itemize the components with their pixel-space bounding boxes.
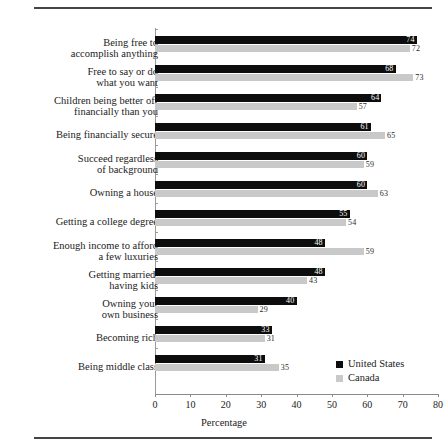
bar-value-label: 31 xyxy=(254,355,262,363)
y-axis-tick xyxy=(155,261,158,262)
bar-canada: 54 xyxy=(155,219,346,226)
category-label: Free to say or do what you want xyxy=(0,65,158,88)
bar-row: Becoming rich3331 xyxy=(0,323,448,352)
bar-united-states: 64 xyxy=(155,94,381,102)
category-label: Being middle class xyxy=(0,361,158,373)
bar-canada: 29 xyxy=(155,306,258,313)
bar-group: 3135 xyxy=(155,355,279,371)
legend-item-united-states: United States xyxy=(336,358,404,370)
bar-united-states: 74 xyxy=(155,36,417,44)
bar-canada: 65 xyxy=(155,132,385,139)
bar-group: 4859 xyxy=(155,239,364,255)
bar-united-states: 48 xyxy=(155,239,325,247)
bar-value-label: 64 xyxy=(371,94,379,102)
bar-group: 6457 xyxy=(155,94,381,110)
legend-label-united-states: United States xyxy=(348,358,404,370)
category-label: Succeed regardless of background xyxy=(0,152,158,175)
bar-value-label: 60 xyxy=(357,181,365,189)
bar-canada: 35 xyxy=(155,364,279,371)
bar-united-states: 55 xyxy=(155,210,350,218)
x-axis-tick xyxy=(403,394,404,397)
category-label: Being free to accomplish anything xyxy=(0,36,158,59)
legend-item-canada: Canada xyxy=(336,372,404,384)
bar-value-label: 68 xyxy=(385,65,393,73)
bar-group: 4843 xyxy=(155,268,325,284)
y-axis-tick xyxy=(155,348,158,349)
category-label: Getting married, having kids xyxy=(0,268,158,291)
bar-value-label: 72 xyxy=(412,45,420,53)
legend-swatch-icon-canada xyxy=(336,375,343,382)
category-label: Owning a house xyxy=(0,187,158,199)
bar-united-states: 60 xyxy=(155,181,367,189)
x-axis-title: Percentage xyxy=(0,417,448,428)
bar-value-label: 60 xyxy=(357,152,365,160)
y-axis-tick xyxy=(155,174,158,175)
x-axis-tick-label: 50 xyxy=(327,399,337,410)
bar-canada: 59 xyxy=(155,248,364,255)
bar-united-states: 68 xyxy=(155,65,396,73)
x-axis-tick-label: 0 xyxy=(153,399,158,410)
x-axis-tick-label: 10 xyxy=(185,399,195,410)
y-axis-tick xyxy=(155,145,158,146)
bar-united-states: 31 xyxy=(155,355,265,363)
bar-group: 6165 xyxy=(155,123,385,139)
bar-group: 7472 xyxy=(155,36,417,52)
category-label: Owning your own business xyxy=(0,297,158,320)
bar-group: 6873 xyxy=(155,65,413,81)
bar-group: 4029 xyxy=(155,297,297,313)
bar-united-states: 48 xyxy=(155,268,325,276)
bar-value-label: 48 xyxy=(314,239,322,247)
y-axis-tick xyxy=(155,87,158,88)
y-axis-tick xyxy=(155,116,158,117)
x-axis-tick-label: 70 xyxy=(398,399,408,410)
x-axis-tick-label: 40 xyxy=(292,399,302,410)
bar-united-states: 60 xyxy=(155,152,367,160)
x-axis-tick xyxy=(190,394,191,397)
bar-row: Getting a college degree5554 xyxy=(0,207,448,236)
bar-value-label: 54 xyxy=(348,219,356,227)
bar-row: Being financially secure6165 xyxy=(0,120,448,149)
bar-group: 6059 xyxy=(155,152,367,168)
x-axis-tick xyxy=(261,394,262,397)
bar-canada: 73 xyxy=(155,74,413,81)
bar-value-label: 31 xyxy=(267,335,275,343)
x-axis-tick xyxy=(332,394,333,397)
category-label: Children being better off financially th… xyxy=(0,94,158,117)
y-axis-tick xyxy=(155,232,158,233)
x-axis-tick xyxy=(155,394,156,397)
x-axis-tick xyxy=(367,394,368,397)
bar-row: Owning your own business4029 xyxy=(0,294,448,323)
chart-legend: United States Canada xyxy=(336,358,404,386)
y-axis-tick xyxy=(155,319,158,320)
bar-value-label: 55 xyxy=(339,210,347,218)
bar-value-label: 63 xyxy=(380,190,388,198)
bar-value-label: 59 xyxy=(366,248,374,256)
bar-row: Getting married, having kids4843 xyxy=(0,265,448,294)
y-axis-tick xyxy=(155,203,158,204)
y-axis-tick xyxy=(155,29,158,30)
bar-group: 6063 xyxy=(155,181,378,197)
bar-value-label: 61 xyxy=(360,123,368,131)
bar-value-label: 73 xyxy=(415,74,423,82)
bar-group: 3331 xyxy=(155,326,272,342)
bar-canada: 72 xyxy=(155,45,410,52)
bar-group: 5554 xyxy=(155,210,350,226)
category-label: Getting a college degree xyxy=(0,216,158,228)
bar-row: Free to say or do what you want6873 xyxy=(0,62,448,91)
x-axis-tick xyxy=(226,394,227,397)
bar-canada: 59 xyxy=(155,161,364,168)
bar-united-states: 33 xyxy=(155,326,272,334)
bar-value-label: 59 xyxy=(366,161,374,169)
bar-canada: 57 xyxy=(155,103,357,110)
x-axis-tick-label: 80 xyxy=(433,399,443,410)
bar-canada: 31 xyxy=(155,335,265,342)
x-axis-tick-label: 20 xyxy=(221,399,231,410)
bar-value-label: 57 xyxy=(359,103,367,111)
bar-value-label: 35 xyxy=(281,364,289,372)
legend-swatch-icon-united-states xyxy=(336,361,343,368)
category-label: Being financially secure xyxy=(0,129,158,141)
bar-canada: 43 xyxy=(155,277,307,284)
bar-row: Enough income to afford a few luxuries48… xyxy=(0,236,448,265)
bar-value-label: 43 xyxy=(309,277,317,285)
top-rule xyxy=(34,7,432,9)
